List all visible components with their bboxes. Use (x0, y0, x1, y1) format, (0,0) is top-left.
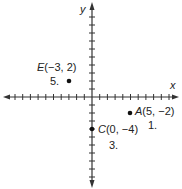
coordinate-plane: x y A(5, −2) 1. C(0, −4) 3. E(−3, 2) 5. (0, 0, 182, 189)
point-a-label: A(5, −2) (134, 105, 174, 117)
x-axis-label: x (169, 79, 176, 91)
point-a-number: 1. (148, 119, 157, 131)
point-c-number: 3. (109, 139, 118, 151)
y-axis-bottom-arrow-icon (90, 180, 95, 188)
y-axis-top-arrow-icon (90, 2, 95, 10)
y-axis (89, 2, 95, 188)
point-c: C(0, −4) 3. (90, 123, 138, 151)
point-e-number: 5. (50, 75, 59, 87)
point-e-dot (67, 79, 72, 84)
y-axis-label: y (79, 3, 87, 15)
point-c-label: C(0, −4) (98, 123, 138, 135)
point-e-label: E(−3, 2) (37, 61, 76, 73)
point-e: E(−3, 2) 5. (37, 61, 76, 87)
x-axis-left-arrow-icon (3, 95, 10, 100)
point-a-dot (128, 111, 133, 116)
x-axis-right-arrow-icon (172, 95, 179, 100)
x-axis (3, 94, 179, 100)
point-c-dot (90, 127, 95, 132)
